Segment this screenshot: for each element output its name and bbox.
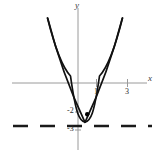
- point-on-curve-marker: [85, 112, 89, 116]
- x-tick-label-3: 3: [125, 88, 129, 96]
- parabola-figure: y x 1 3 -2 -3: [0, 0, 165, 158]
- parabola-curve: [48, 18, 123, 122]
- parabola-curve-smooth: [48, 18, 123, 122]
- x-tick-label-1: 1: [94, 88, 98, 96]
- y-tick-label-minus-2: -2: [67, 107, 74, 115]
- x-axis-label: x: [148, 74, 152, 83]
- plot-canvas: [0, 0, 165, 158]
- y-tick-label-minus-3: -3: [67, 125, 74, 133]
- y-axis-label: y: [75, 1, 79, 10]
